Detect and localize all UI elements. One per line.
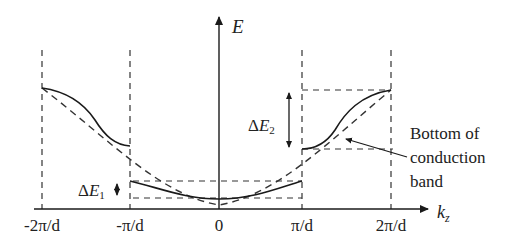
delta-e2-label: ΔE2 <box>248 116 275 136</box>
delta-e2-annotation: ΔE2 <box>248 93 289 147</box>
delta-e1-annotation: ΔE1 <box>78 181 117 201</box>
x-tick-labels: -2π/d -π/d 0 π/d 2π/d <box>24 216 407 235</box>
k-axis-label: kz <box>437 202 450 225</box>
tick-neg-pi-d: -π/d <box>116 216 144 235</box>
note-line-1: Bottom of <box>410 124 480 143</box>
band-structure-diagram: E kz -2π/d -π/d 0 π/d 2π/d ΔE1 ΔE2 Botto… <box>0 0 526 251</box>
tick-neg-2pi-d: -2π/d <box>24 216 60 235</box>
tick-pi-d: π/d <box>291 216 313 235</box>
band-lowest <box>130 181 302 199</box>
note-line-2: conduction <box>410 148 486 167</box>
tick-zero: 0 <box>215 216 224 235</box>
band-right-upper <box>302 90 391 149</box>
tick-2pi-d: 2π/d <box>376 216 407 235</box>
note-line-3: band <box>410 172 444 191</box>
delta-e1-label: ΔE1 <box>78 181 105 201</box>
band-left-upper <box>42 88 130 146</box>
e-axis-label: E <box>231 16 244 37</box>
note-pointer-arrow <box>346 139 407 157</box>
conduction-band-note: Bottom of conduction band <box>346 124 486 191</box>
